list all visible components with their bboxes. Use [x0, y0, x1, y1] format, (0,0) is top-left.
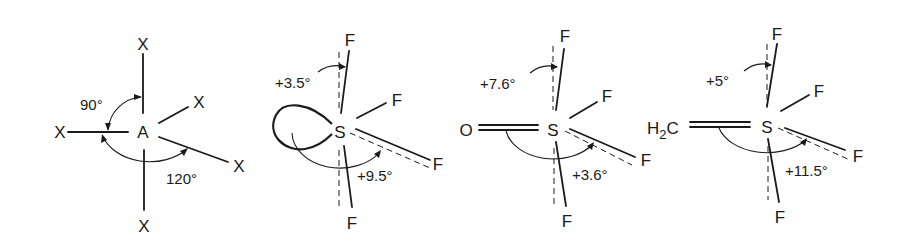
ligand-label-back: F	[602, 87, 612, 106]
ligand-label-back: X	[193, 93, 204, 112]
panel-ax5: A X X X X X 90° 120°	[54, 35, 244, 236]
axial-bond-bottom	[556, 142, 566, 206]
substituent-label-oxygen: O	[459, 121, 472, 140]
axial-bond-top	[767, 44, 777, 106]
center-atom-label: S	[761, 118, 772, 137]
substituent-h: H	[647, 119, 659, 138]
substituent-subscript: 2	[659, 127, 666, 142]
angle-label-equatorial: +9.5°	[357, 167, 393, 184]
ligand-label-left: X	[54, 123, 65, 142]
arrowhead	[105, 123, 111, 131]
reference-equatorial	[565, 131, 632, 165]
panel-osf4: S O F F F F +7.6° +3.6°	[459, 27, 651, 231]
panel-sf4: S F F F F +3.5° +9.5°	[273, 31, 443, 233]
angle-label-equatorial: +3.6°	[572, 166, 608, 183]
angle-arc-90	[108, 97, 141, 130]
arrowhead	[551, 63, 558, 70]
arrowhead	[765, 61, 772, 68]
ligand-label-axial-top: F	[772, 25, 782, 44]
center-atom-label: S	[334, 123, 345, 142]
ligand-label-axial-top: X	[137, 35, 148, 54]
panel-h2csf4: S H2C F F F F +5° +11.5°	[647, 25, 863, 227]
arrowhead	[800, 138, 807, 146]
ligand-label-front: F	[433, 155, 443, 174]
ligand-label-back: F	[814, 82, 824, 101]
ligand-label-axial-top: F	[345, 31, 355, 50]
center-atom-label: A	[137, 123, 149, 142]
ligand-label-axial-top: F	[560, 27, 570, 46]
arrowhead	[339, 63, 346, 70]
angle-label-90: 90°	[80, 96, 103, 113]
center-atom-label: S	[547, 121, 558, 140]
ligand-label-front: F	[853, 147, 863, 166]
ligand-label-back: F	[392, 91, 402, 110]
equatorial-bond-back	[570, 102, 597, 118]
arrowhead	[134, 94, 142, 100]
axial-bond-bottom	[344, 146, 352, 207]
angle-label-axial: +3.5°	[275, 74, 311, 91]
equatorial-bond-back	[781, 95, 809, 111]
lone-pair-lobe	[273, 105, 332, 149]
axial-bond-bottom	[768, 139, 779, 202]
angle-label-axial: +5°	[706, 72, 729, 89]
equatorial-bond-front	[356, 129, 430, 160]
ligand-label-front: X	[233, 157, 244, 176]
ligand-label-axial-bottom: F	[775, 208, 785, 227]
angle-label-equatorial: +11.5°	[785, 162, 828, 179]
ligand-label-axial-bottom: F	[347, 214, 357, 233]
substituent-c: C	[667, 119, 679, 138]
reference-equatorial	[778, 128, 850, 160]
molecular-geometry-figure: A X X X X X 90° 120° S F F F F +3.5° +9.…	[0, 0, 901, 245]
axial-bond-top	[556, 49, 564, 110]
ligand-label-axial-bottom: F	[562, 212, 572, 231]
ligand-label-front: F	[641, 151, 651, 170]
axial-bond-top	[341, 51, 349, 113]
angle-label-axial: +7.6°	[480, 75, 516, 92]
equatorial-bond-front	[785, 128, 845, 150]
substituent-label-methylene: H2C	[647, 119, 679, 142]
equatorial-bond-back	[159, 107, 188, 123]
arrowhead	[180, 148, 188, 156]
equatorial-bond-back	[357, 103, 386, 118]
ligand-label-axial-bottom: X	[138, 217, 149, 236]
reference-equatorial	[350, 133, 430, 168]
angle-label-120: 120°	[166, 170, 197, 187]
